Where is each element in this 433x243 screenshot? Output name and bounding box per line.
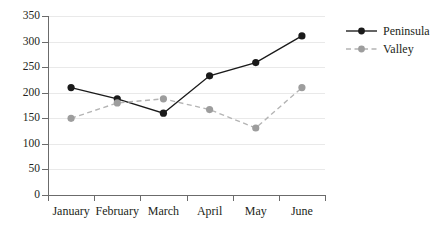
chart-legend: PeninsulaValley [345,22,433,58]
chart-figure: 050100150200250300350 JanuaryFebruaryMar… [0,0,433,243]
data-point-peninsula-january [67,84,74,91]
data-point-peninsula-june [298,32,305,39]
caption-strip [0,234,433,243]
legend-item-valley[interactable]: Valley [345,40,433,58]
legend-label: Peninsula [383,25,430,37]
legend-label: Valley [383,43,414,55]
data-point-valley-may [252,124,259,131]
data-point-peninsula-march [160,110,167,117]
data-point-valley-march [160,95,167,102]
data-point-valley-june [298,84,305,91]
data-point-valley-february [114,99,121,106]
data-point-peninsula-april [206,72,213,79]
legend-swatch-icon [345,43,378,55]
legend-swatch-icon [345,25,378,37]
data-point-peninsula-may [252,59,259,66]
legend-item-peninsula[interactable]: Peninsula [345,22,433,40]
data-point-valley-january [67,115,74,122]
series-line-peninsula [71,36,302,113]
data-point-valley-april [206,106,213,113]
